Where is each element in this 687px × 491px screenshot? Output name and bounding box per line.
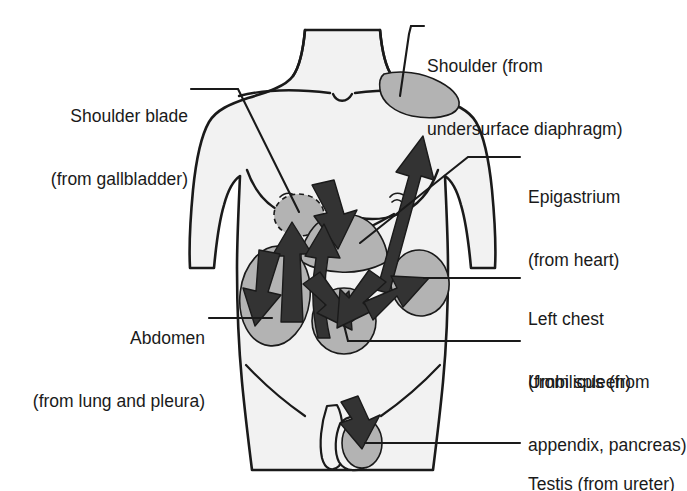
label-testis: Testis (from ureter)	[528, 432, 675, 491]
label-umbilicus-line1: Umbilicus (from	[528, 372, 687, 393]
label-shoulder-line1: Shoulder (from	[427, 56, 623, 77]
label-abdomen: Abdomen (from lung and pleura)	[0, 286, 205, 454]
label-abdomen-line1: Abdomen	[0, 328, 205, 349]
label-abdomen-line2: (from lung and pleura)	[0, 391, 205, 412]
label-shoulder-line2: undersurface diaphragm)	[427, 119, 623, 140]
label-epigastrium-line1: Epigastrium	[528, 187, 620, 208]
label-left-chest-line1: Left chest	[528, 309, 631, 330]
referred-pain-diagram: Shoulder (from undersurface diaphragm) S…	[0, 0, 687, 491]
label-testis-line1: Testis (from ureter)	[528, 474, 675, 491]
label-shoulder-blade: Shoulder blade (from gallbladder)	[0, 64, 188, 232]
label-shoulder-blade-line1: Shoulder blade	[0, 106, 188, 127]
label-shoulder-blade-line2: (from gallbladder)	[0, 169, 188, 190]
